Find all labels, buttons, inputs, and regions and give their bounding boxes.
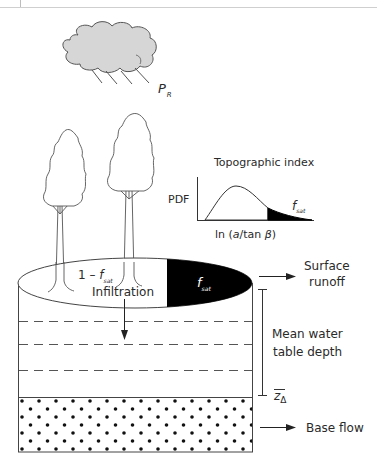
groundwater-zone	[19, 398, 253, 453]
dashed-layer-lines	[19, 322, 252, 371]
precipitation-label: PR	[158, 81, 172, 99]
surface-runoff-label-line2: runoff	[309, 275, 345, 289]
pdf-axis-label: PDF	[168, 193, 189, 206]
surface-runoff-arrow	[259, 273, 296, 280]
pdf-fsat-label: fsat	[292, 199, 306, 214]
top-frame	[0, 0, 377, 8]
topmodel-diagram: PR Topographic index PDF fsat ln (a/tan …	[0, 0, 377, 476]
water-table-label-line2: table depth	[273, 345, 342, 359]
rain-cloud-icon	[63, 22, 156, 73]
water-table-label-line1: Mean water	[272, 327, 343, 341]
base-flow-label: Base flow	[306, 421, 364, 435]
base-flow-arrow	[260, 424, 296, 431]
pdf-x-axis-label: ln (a/tan β)	[215, 228, 276, 241]
water-table-depth-bracket	[258, 289, 267, 396]
land-surface	[18, 258, 252, 308]
topographic-index-title: Topographic index	[213, 156, 315, 169]
surface-runoff-label-line1: Surface	[304, 259, 350, 273]
infiltration-label: Infiltration	[92, 285, 154, 299]
mean-depth-symbol: zΔ	[273, 389, 287, 405]
